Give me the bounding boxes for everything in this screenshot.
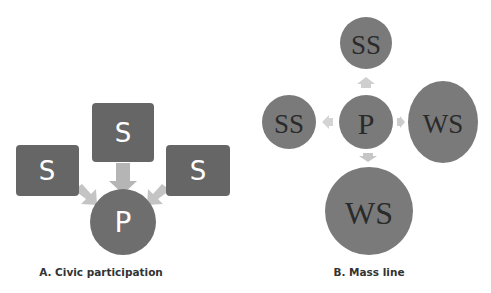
node-b-center: P — [339, 95, 393, 149]
caption-b: B. Mass line — [333, 266, 404, 278]
node-a-center: P — [90, 189, 156, 255]
node-b-top-label: SS — [351, 30, 381, 60]
node-b-right: WS — [408, 81, 478, 163]
node-b-bottom: WS — [325, 167, 413, 255]
node-b-left: SS — [262, 95, 316, 149]
node-b-right-label: WS — [423, 109, 464, 139]
arrow-center-to-top — [357, 77, 375, 88]
node-b-left-label: SS — [274, 109, 304, 139]
node-a-top: S — [92, 103, 154, 162]
arrow-center-to-right — [397, 116, 405, 128]
diagram-canvas: S S S P A. Civic participation SS — [0, 0, 491, 293]
node-a-top-label: S — [115, 118, 132, 148]
node-b-top: SS — [340, 17, 392, 69]
arrow-center-to-left — [322, 115, 333, 129]
node-a-left: S — [16, 145, 79, 196]
node-a-left-label: S — [39, 156, 56, 186]
node-a-right: S — [166, 145, 230, 196]
arrow-center-to-bottom — [359, 153, 377, 162]
node-b-bottom-label: WS — [345, 195, 393, 231]
node-a-center-label: P — [115, 206, 132, 239]
diagram-b: SS SS P WS WS B. Mass line — [262, 17, 478, 278]
node-b-center-label: P — [358, 107, 375, 140]
caption-a: A. Civic participation — [39, 266, 163, 278]
diagram-a: S S S P A. Civic participation — [16, 103, 230, 278]
node-a-right-label: S — [190, 156, 207, 186]
